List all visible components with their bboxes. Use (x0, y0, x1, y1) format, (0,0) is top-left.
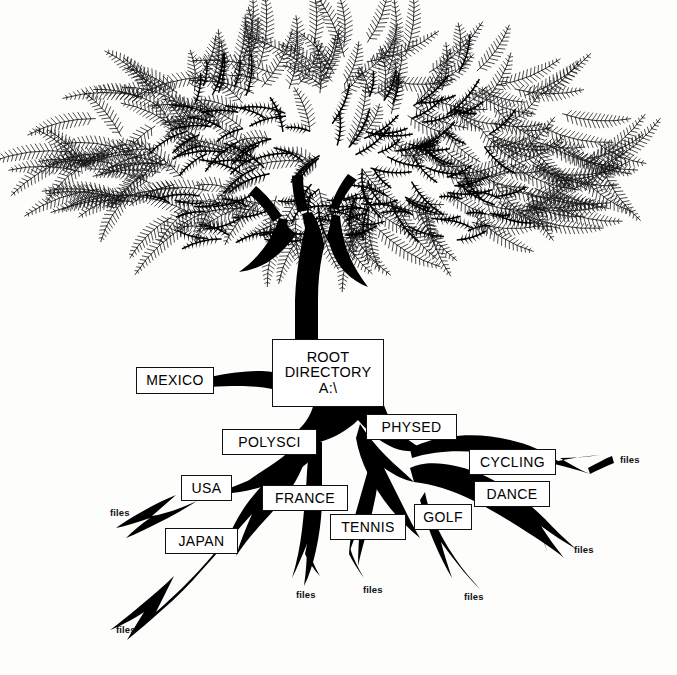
node-cycling[interactable]: CYCLING (469, 449, 556, 475)
files-label: files (574, 544, 594, 555)
files-label: files (620, 454, 640, 465)
root-line-2: DIRECTORY (285, 365, 372, 380)
node-france[interactable]: FRANCE (262, 485, 348, 511)
node-label: USA (192, 481, 222, 496)
node-label: POLYSCI (238, 435, 300, 450)
node-label: MEXICO (146, 373, 204, 388)
node-label: DANCE (486, 487, 537, 502)
node-mexico[interactable]: MEXICO (136, 367, 214, 394)
node-usa[interactable]: USA (181, 475, 232, 501)
tree-directory-illustration: ROOT DIRECTORY A:\ MEXICO POLYSCI PHYSED… (0, 0, 677, 675)
node-label: PHYSED (382, 420, 442, 435)
node-label: TENNIS (341, 520, 395, 535)
files-label: files (116, 624, 136, 635)
tree-artwork (0, 0, 677, 675)
canopy-foliage (0, 0, 660, 292)
files-label: files (464, 591, 484, 602)
node-label: FRANCE (275, 491, 335, 506)
node-root-directory[interactable]: ROOT DIRECTORY A:\ (272, 339, 384, 407)
node-japan[interactable]: JAPAN (165, 528, 238, 554)
node-tennis[interactable]: TENNIS (330, 514, 406, 540)
node-polysci[interactable]: POLYSCI (222, 429, 317, 455)
files-label: files (296, 589, 316, 600)
root-line-1: ROOT (307, 350, 350, 365)
node-label: CYCLING (480, 455, 545, 470)
files-label: files (363, 584, 383, 595)
root-line-3: A:\ (319, 381, 337, 396)
node-label: GOLF (423, 510, 463, 525)
node-dance[interactable]: DANCE (474, 481, 550, 507)
node-golf[interactable]: GOLF (414, 504, 472, 530)
node-physed[interactable]: PHYSED (366, 414, 457, 440)
files-label: files (110, 507, 130, 518)
node-label: JAPAN (178, 534, 224, 549)
